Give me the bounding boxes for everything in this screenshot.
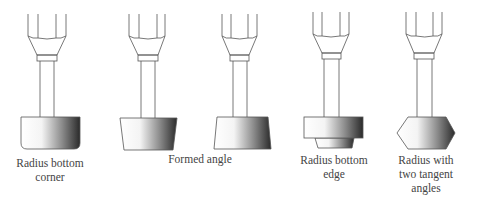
label-line: Radius bottom <box>294 153 374 167</box>
tool-head <box>214 117 271 149</box>
tool-head-lower <box>315 138 354 148</box>
label-two-tangent-angles: Radius with two tangent angles <box>386 153 466 195</box>
tool-holder <box>129 14 165 61</box>
tool-shank <box>324 59 339 117</box>
label-line: Radius with <box>386 153 466 167</box>
tool-holder <box>406 12 442 59</box>
label-line: two tangent <box>386 167 466 181</box>
tool-shank <box>417 59 432 117</box>
tool-formed-angle-left <box>120 14 177 150</box>
tool-radius-bottom-corner <box>21 14 80 149</box>
label-radius-bottom-corner: Radius bottom corner <box>10 156 90 184</box>
label-line: edge <box>294 167 374 181</box>
tool-head <box>21 117 80 149</box>
tool-formed-angle-right <box>214 14 271 149</box>
tool-head-upper <box>304 117 363 138</box>
tool-shank <box>233 61 247 117</box>
label-line: Formed angle <box>150 152 250 166</box>
tool-radius-bottom-edge <box>304 12 363 148</box>
tool-shank <box>40 61 54 117</box>
tool-holder <box>313 12 349 59</box>
label-line: angles <box>386 181 466 195</box>
label-radius-bottom-edge: Radius bottom edge <box>294 153 374 181</box>
label-formed-angle: Formed angle <box>150 152 250 166</box>
tool-holder <box>28 14 66 61</box>
tool-holder <box>222 14 257 61</box>
tool-head <box>397 117 455 149</box>
tool-two-tangent-angles <box>397 12 455 149</box>
label-line: Radius bottom <box>10 156 90 170</box>
tool-head <box>120 118 177 150</box>
label-line: corner <box>10 170 90 184</box>
tool-shank <box>141 61 155 118</box>
